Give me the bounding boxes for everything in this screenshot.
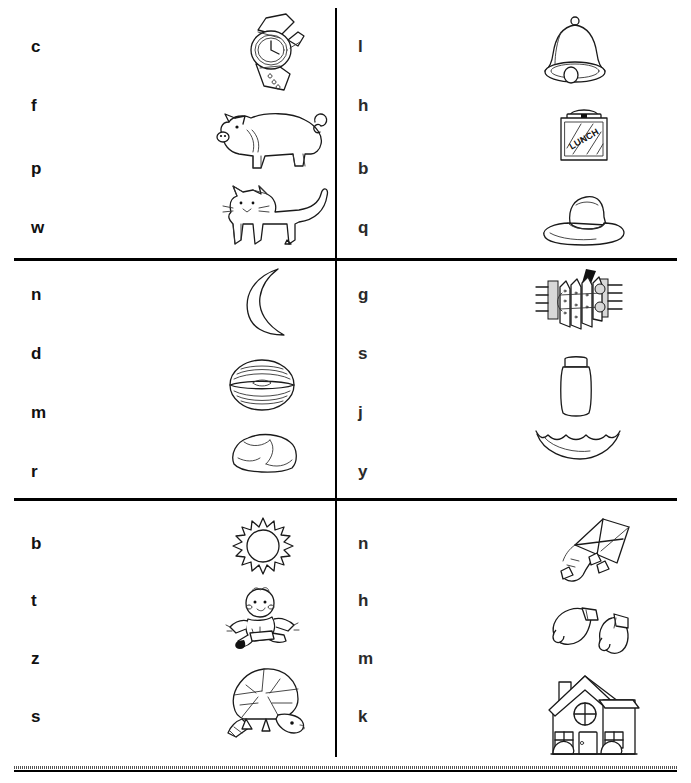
letter-option[interactable]: z — [31, 650, 61, 667]
footer-solid-rule — [14, 770, 677, 772]
letter-option[interactable]: y — [358, 463, 388, 480]
letter-option[interactable]: s — [358, 345, 388, 362]
letter-option[interactable]: f — [31, 97, 61, 114]
gate-picture[interactable] — [530, 265, 626, 337]
turtle-picture[interactable] — [222, 665, 312, 739]
letter-option[interactable]: r — [31, 463, 61, 480]
letter-option[interactable]: m — [31, 404, 61, 421]
letter-option[interactable]: t — [31, 592, 61, 609]
moon-picture[interactable] — [240, 267, 290, 337]
letter-option[interactable]: p — [31, 160, 61, 177]
letter-option[interactable]: n — [31, 286, 61, 303]
letter-option[interactable]: w — [31, 219, 61, 236]
letter-option[interactable]: m — [358, 650, 388, 667]
letter-option[interactable]: c — [31, 38, 61, 55]
cat-picture[interactable] — [203, 182, 331, 252]
smile-picture[interactable] — [530, 427, 626, 461]
letter-option[interactable]: n — [358, 535, 388, 552]
letter-option[interactable]: b — [358, 160, 388, 177]
section-divider-2 — [14, 498, 677, 501]
letter-option[interactable]: h — [358, 97, 388, 114]
pig-picture[interactable] — [205, 110, 330, 172]
nut-picture[interactable] — [227, 358, 297, 412]
footer-dotted-rule — [14, 766, 677, 769]
letter-option[interactable]: l — [358, 38, 388, 55]
kite-picture[interactable] — [545, 517, 635, 593]
letter-option[interactable]: k — [358, 708, 388, 725]
sun-picture[interactable] — [232, 517, 294, 575]
letter-option[interactable]: g — [358, 286, 388, 303]
jar-picture[interactable] — [556, 355, 596, 419]
section-divider-1 — [14, 258, 677, 261]
letter-option[interactable]: j — [358, 404, 388, 421]
rock-picture[interactable] — [228, 432, 300, 474]
letter-option[interactable]: d — [31, 345, 61, 362]
letter-option[interactable]: b — [31, 535, 61, 552]
bell-picture[interactable] — [539, 14, 611, 88]
letter-option[interactable]: q — [358, 219, 388, 236]
hat-picture[interactable] — [540, 193, 628, 248]
baby-picture[interactable] — [224, 585, 300, 651]
worksheet-page: c f p w — [0, 0, 691, 783]
letter-option[interactable]: h — [358, 592, 388, 609]
house-picture[interactable] — [541, 670, 639, 758]
column-divider-2 — [335, 259, 337, 500]
column-divider-3 — [335, 499, 337, 757]
letter-option[interactable]: s — [31, 708, 61, 725]
column-divider-1 — [335, 8, 337, 260]
lunchbox-picture[interactable]: LUNCH — [553, 104, 615, 164]
mittens-picture[interactable] — [550, 604, 634, 658]
watch-picture[interactable] — [236, 12, 316, 94]
